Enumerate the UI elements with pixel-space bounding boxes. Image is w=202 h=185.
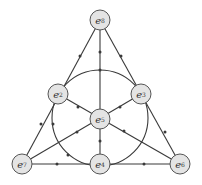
arrow-marker xyxy=(143,163,146,166)
arrow-marker xyxy=(52,123,55,126)
arrow-marker xyxy=(76,131,79,134)
label-e6: e6 xyxy=(169,153,191,175)
label-e2: e2 xyxy=(47,83,69,105)
label-e4: e4 xyxy=(89,153,111,175)
arrow-marker xyxy=(40,123,43,126)
label-e7: e7 xyxy=(11,153,33,175)
edge-e3-e5-e7 xyxy=(22,94,141,164)
arrow-marker xyxy=(67,154,70,157)
arrow-marker xyxy=(99,69,102,72)
arrow-marker xyxy=(119,106,122,109)
arrow-marker xyxy=(79,55,82,58)
label-e3: e3 xyxy=(130,83,152,105)
arrow-marker xyxy=(164,131,167,134)
label-e8: e8 xyxy=(89,9,111,31)
arrow-marker xyxy=(99,140,102,143)
arrow-marker xyxy=(99,51,102,54)
arrow-marker xyxy=(56,163,59,166)
arrow-marker xyxy=(120,55,123,58)
edge-e2-e5-e6 xyxy=(58,94,180,164)
label-e5: e5 xyxy=(89,108,111,130)
arrow-marker xyxy=(123,130,126,133)
arrow-marker xyxy=(77,106,80,109)
